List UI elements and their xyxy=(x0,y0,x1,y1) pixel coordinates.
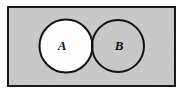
venn-diagram: A B xyxy=(0,0,183,95)
venn-diagram-canvas: A B xyxy=(0,0,183,95)
set-b-label: B xyxy=(114,38,124,53)
set-a-label: A xyxy=(57,38,67,53)
